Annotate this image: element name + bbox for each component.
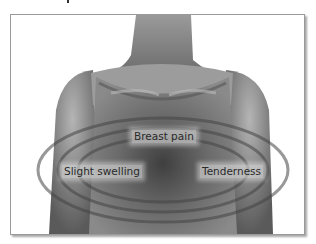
tank-top — [89, 77, 237, 234]
illustration-frame: Breast pain Slight swelling Tenderness — [10, 14, 305, 235]
label-slight-swelling: Slight swelling — [62, 165, 142, 178]
label-breast-pain: Breast pain — [132, 130, 196, 143]
clipped-heading-fragment — [67, 0, 69, 3]
torso-illustration — [11, 15, 304, 234]
left-arm — [49, 70, 96, 234]
label-tenderness: Tenderness — [200, 165, 263, 178]
